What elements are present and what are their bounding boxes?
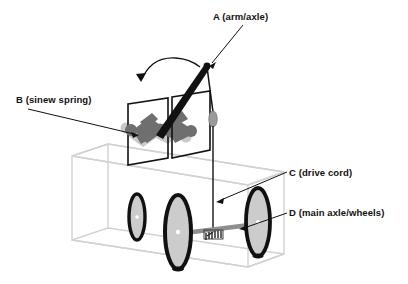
callout-a: A (arm/axle) [209,11,268,69]
callout-a-label: A (arm/axle) [213,11,268,22]
callout-c-label: C (drive cord) [289,167,352,178]
callout-c-arrowhead [216,198,224,204]
rotation-arrow [142,58,200,79]
wheel-rear-left-hub [135,215,139,219]
rotation-arrow-arc [142,58,200,79]
spring-knob-right [185,125,197,137]
callout-a-leader [212,25,243,63]
chassis-edge-top-near [72,156,248,185]
wheel-rear-left [129,194,145,240]
catapult-diagram: A (arm/axle) B (sinew spring) C (drive c… [0,0,408,284]
wheel-front-left-contact [172,266,184,271]
diagram-canvas: A (arm/axle) B (sinew spring) C (drive c… [0,0,408,284]
drive-cord [207,67,217,236]
rotation-arrow-head [136,73,146,82]
chassis-top-face [72,144,284,185]
chassis-edge-bottom-near [72,240,248,267]
cord-pouch [209,111,217,127]
callout-b-label: B (sinew spring) [16,94,92,105]
callout-b: B (sinew spring) [16,94,139,138]
wheel-front-right-contact [253,254,264,259]
wheel-front-left-hub [176,230,180,234]
wheel-front-left [165,195,191,272]
callout-b-leader [28,109,134,134]
callout-d-label: D (main axle/wheels) [289,207,384,218]
